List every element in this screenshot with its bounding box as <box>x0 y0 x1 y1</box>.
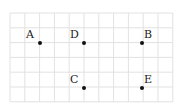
point-d-dot <box>82 41 86 45</box>
point-label-d: D <box>70 29 79 40</box>
point-label-a: A <box>26 29 34 40</box>
point-label-b: B <box>144 29 152 40</box>
point-label-c: C <box>70 74 78 85</box>
point-c-dot <box>82 86 86 90</box>
grid-paper <box>0 0 182 112</box>
point-b-dot <box>140 41 144 45</box>
point-a-dot <box>38 41 42 45</box>
point-label-e: E <box>144 74 152 85</box>
point-e-dot <box>140 86 144 90</box>
